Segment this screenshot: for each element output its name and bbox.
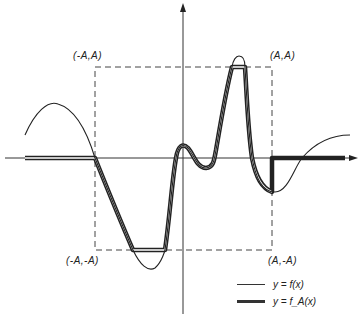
corner-label-bottom-left: (-A,-A) [66, 255, 99, 266]
x-axis-arrow-icon [349, 155, 358, 161]
corner-label-top-left: (-A,A) [73, 50, 102, 61]
y-axis-arrow-icon [180, 3, 186, 12]
thin-line-swatch-icon [237, 284, 265, 285]
legend-label-fA: y = f_A(x) [273, 296, 316, 307]
f-curve [25, 56, 350, 269]
legend-item-fA: y = f_A(x) [237, 296, 316, 307]
thick-line-swatch-icon [237, 300, 265, 303]
corner-label-bottom-right: (A,-A) [268, 255, 297, 266]
legend-label-f: y = f(x) [273, 279, 304, 290]
corner-label-top-right: (A,A) [270, 50, 295, 61]
legend-item-f: y = f(x) [237, 279, 304, 290]
figure-canvas [0, 0, 361, 318]
